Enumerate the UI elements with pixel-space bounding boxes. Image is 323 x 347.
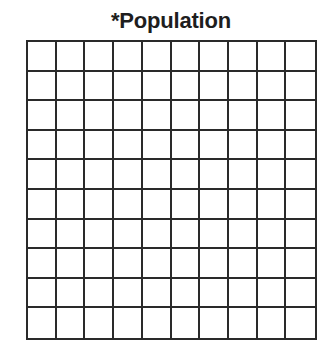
grid-cell (286, 279, 315, 309)
grid-cell (114, 72, 143, 102)
grid-cell (200, 72, 229, 102)
grid-cell (28, 190, 57, 220)
grid-cell (200, 279, 229, 309)
grid-cell (286, 190, 315, 220)
grid-cell (200, 220, 229, 250)
grid-cell (85, 190, 114, 220)
grid-cell (114, 160, 143, 190)
grid-cell (200, 160, 229, 190)
grid-cell (258, 190, 287, 220)
grid-cell (143, 131, 172, 161)
grid-cell (114, 101, 143, 131)
grid-cell (172, 190, 201, 220)
grid-cell (28, 279, 57, 309)
grid-cell (258, 131, 287, 161)
grid-cell (143, 190, 172, 220)
grid-cell (172, 101, 201, 131)
grid-cell (85, 131, 114, 161)
grid-cell (114, 308, 143, 338)
grid-cell (286, 72, 315, 102)
grid-cell (229, 220, 258, 250)
grid-cell (143, 72, 172, 102)
grid-cell (229, 42, 258, 72)
grid-cell (286, 42, 315, 72)
grid-cell (57, 190, 86, 220)
grid-cell (85, 249, 114, 279)
grid-cell (229, 308, 258, 338)
grid-cell (258, 101, 287, 131)
grid-cell (229, 279, 258, 309)
grid-cell (85, 279, 114, 309)
diagram-title: *Population (0, 8, 323, 34)
grid-cell (57, 160, 86, 190)
grid-cell (200, 308, 229, 338)
grid-cell (286, 101, 315, 131)
grid-cell (57, 249, 86, 279)
grid-cell (200, 42, 229, 72)
grid-cell (229, 131, 258, 161)
grid-cell (28, 101, 57, 131)
grid-cell (286, 131, 315, 161)
grid-cell (57, 101, 86, 131)
grid-cell (85, 72, 114, 102)
grid-cell (143, 42, 172, 72)
grid-cell (229, 160, 258, 190)
grid-cell (85, 308, 114, 338)
grid-cell (57, 279, 86, 309)
grid-cell (114, 42, 143, 72)
grid-cell (286, 308, 315, 338)
grid-cell (57, 42, 86, 72)
grid-cell (286, 160, 315, 190)
grid-cell (28, 249, 57, 279)
grid-cell (200, 131, 229, 161)
grid-cell (258, 72, 287, 102)
grid-cell (258, 249, 287, 279)
grid-cell (28, 308, 57, 338)
grid-cell (57, 72, 86, 102)
grid-cell (28, 42, 57, 72)
grid-cell (143, 249, 172, 279)
grid-cell (172, 220, 201, 250)
grid-cell (172, 308, 201, 338)
grid-cell (258, 42, 287, 72)
grid-cell (172, 160, 201, 190)
grid-cell (229, 190, 258, 220)
grid-cell (258, 279, 287, 309)
population-grid (26, 40, 317, 340)
grid-cell (114, 279, 143, 309)
grid-cell (85, 160, 114, 190)
grid-cell (229, 72, 258, 102)
grid-cell (114, 131, 143, 161)
grid-cell (57, 308, 86, 338)
grid-cell (172, 131, 201, 161)
grid-cell (114, 190, 143, 220)
grid-cell (258, 308, 287, 338)
grid-cell (28, 220, 57, 250)
grid-cell (229, 101, 258, 131)
grid-cell (28, 72, 57, 102)
grid-cell (85, 101, 114, 131)
grid-cell (143, 101, 172, 131)
grid-cell (200, 101, 229, 131)
grid-cell (286, 249, 315, 279)
grid-cell (172, 72, 201, 102)
grid-cell (229, 249, 258, 279)
grid-cell (57, 220, 86, 250)
grid-cell (143, 279, 172, 309)
grid-cell (286, 220, 315, 250)
grid-cell (114, 220, 143, 250)
grid-cell (172, 279, 201, 309)
grid-cell (172, 249, 201, 279)
grid-cell (200, 249, 229, 279)
grid-cell (258, 160, 287, 190)
grid-cell (258, 220, 287, 250)
grid-cell (28, 160, 57, 190)
grid-cell (114, 249, 143, 279)
grid-cell (85, 220, 114, 250)
grid-cell (143, 220, 172, 250)
grid-cell (85, 42, 114, 72)
grid-cell (143, 308, 172, 338)
grid-cell (57, 131, 86, 161)
grid-cell (172, 42, 201, 72)
grid-cell (28, 131, 57, 161)
